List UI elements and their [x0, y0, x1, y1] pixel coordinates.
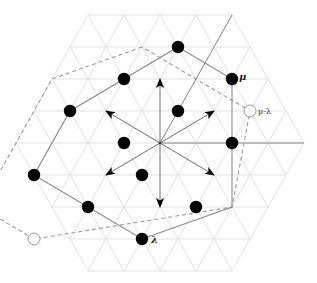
grid-line-antidiagonal	[34, 111, 124, 271]
grid-line-diagonal	[196, 111, 286, 271]
weight-dot	[226, 73, 238, 85]
weight-dot	[64, 105, 76, 117]
down-right-root-arrow-icon	[160, 143, 214, 175]
weight-dot	[226, 137, 238, 149]
weight-dot	[172, 105, 184, 117]
grid-line-antidiagonal	[196, 15, 286, 175]
mu-minus-lambda-label: μ-λ	[258, 107, 271, 116]
down-left-root-arrow-icon	[106, 143, 160, 175]
diagram-svg: μ μ-λ λ	[0, 0, 317, 283]
weight-dot	[172, 41, 184, 53]
weight-dot	[118, 73, 130, 85]
up-right-root-arrow-icon	[160, 111, 214, 143]
lambda-open-dot	[28, 233, 40, 245]
weight-dot	[82, 201, 94, 213]
weight-dot	[136, 233, 148, 245]
weight-dot	[118, 137, 130, 149]
weight-dot	[136, 169, 148, 181]
weight-dot	[28, 169, 40, 181]
weight-dot	[190, 201, 202, 213]
mu-minus-lambda-open-dot	[244, 105, 256, 117]
lambda-label: λ	[150, 234, 158, 245]
mu-label: μ	[239, 71, 246, 82]
weight-diagram: μ μ-λ λ	[0, 0, 317, 283]
up-left-root-arrow-icon	[106, 111, 160, 143]
origin-dot	[159, 142, 162, 145]
